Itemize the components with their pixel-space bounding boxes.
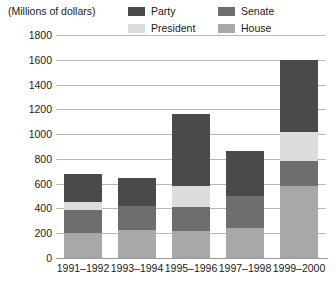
bar-segment-senate [226, 196, 264, 228]
plot-area [56, 35, 326, 258]
bar-segment-house [64, 233, 102, 258]
x-tick-label: 1997–1998 [215, 262, 275, 275]
bar-segment-senate [172, 207, 210, 231]
x-axis-line [56, 258, 328, 259]
bar-segment-president [172, 186, 210, 207]
legend-label: Senate [241, 6, 274, 17]
bar-segment-house [118, 230, 156, 258]
legend-label: President [151, 23, 195, 34]
bar-segment-president [280, 132, 318, 162]
bar-segment-senate [64, 210, 102, 234]
y-axis-units-caption: (Millions of dollars) [8, 5, 96, 17]
y-tick-label: 200 [6, 228, 52, 239]
bar-segment-party [172, 114, 210, 186]
x-tick-label: 1995–1996 [161, 262, 221, 275]
legend-label: Party [151, 6, 176, 17]
y-tick-label: 1600 [6, 55, 52, 66]
bar-segment-house [226, 228, 264, 258]
bar-segment-party [118, 178, 156, 206]
bar-segment-house [172, 231, 210, 258]
legend-item-house: House [218, 21, 304, 36]
y-axis: 180016001400120010008006004002000 [0, 35, 52, 258]
x-tick-label: 1993–1994 [107, 262, 167, 275]
chart-legend: PartySenatePresidentHouse [128, 4, 328, 36]
legend-item-president: President [128, 21, 214, 36]
bar-1999-2000 [280, 60, 318, 258]
legend-item-senate: Senate [218, 4, 304, 19]
y-tick-label: 1000 [6, 129, 52, 140]
bar-1997-1998 [226, 151, 264, 258]
legend-swatch-party [128, 7, 145, 16]
gridline [56, 35, 326, 36]
y-tick-label: 800 [6, 154, 52, 165]
legend-swatch-president [128, 24, 145, 33]
bar-segment-party [64, 174, 102, 202]
bar-segment-senate [280, 161, 318, 186]
x-axis: 1991–19921993–19941995–19961997–19981999… [56, 262, 328, 280]
bar-segment-party [226, 151, 264, 196]
y-tick-label: 600 [6, 179, 52, 190]
legend-item-party: Party [128, 4, 214, 19]
bar-segment-president [64, 202, 102, 209]
legend-swatch-house [218, 24, 235, 33]
bar-segment-party [280, 60, 318, 132]
x-tick-label: 1999–2000 [269, 262, 329, 275]
y-tick-label: 0 [6, 253, 52, 264]
legend-label: House [241, 23, 271, 34]
bar-1993-1994 [118, 178, 156, 259]
bar-1995-1996 [172, 114, 210, 258]
y-tick-label: 1800 [6, 30, 52, 41]
legend-swatch-senate [218, 7, 235, 16]
bar-1991-1992 [64, 174, 102, 258]
stacked-bar-chart: (Millions of dollars) PartySenatePreside… [0, 0, 336, 285]
x-tick-label: 1991–1992 [53, 262, 113, 275]
bar-segment-house [280, 186, 318, 258]
bar-segment-senate [118, 206, 156, 230]
y-tick-label: 1200 [6, 104, 52, 115]
y-tick-label: 400 [6, 203, 52, 214]
y-tick-label: 1400 [6, 80, 52, 91]
